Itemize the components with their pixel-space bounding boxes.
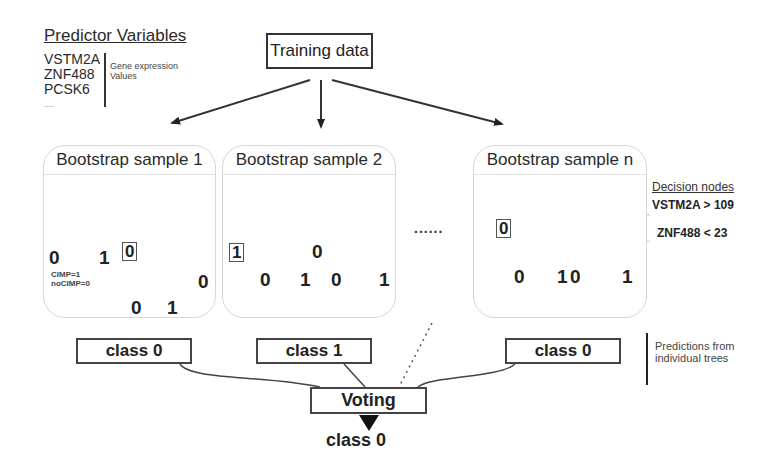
leaf-node: 0 — [49, 248, 60, 267]
leaf-node: 1 — [622, 267, 633, 286]
voting-box: Voting — [310, 387, 427, 414]
leaf-node: 1 — [379, 270, 390, 289]
predictor-gene-list: VSTM2A ZNF488 PCSK6 .... — [44, 52, 100, 112]
leaf-node: 0 — [331, 270, 342, 289]
gene-label: .... — [44, 97, 100, 112]
gene-label: PCSK6 — [44, 82, 100, 97]
predictor-variables-title: Predictor Variables — [44, 26, 186, 46]
tree-2-prediction: class 1 — [256, 338, 372, 364]
divider — [44, 174, 215, 175]
bootstrap-sample-1: Bootstrap sample 1 — [43, 145, 216, 318]
highlighted-leaf-node: 1 — [229, 243, 244, 262]
gene-label: VSTM2A — [44, 52, 100, 67]
divider — [223, 174, 395, 175]
bootstrap-title: Bootstrap sample 1 — [44, 150, 215, 170]
class-legend: CIMP=1 noCIMP=0 — [51, 270, 90, 288]
decision-node-label: ZNF488 < 23 — [657, 226, 727, 240]
bootstrap-title: Bootstrap sample 2 — [223, 150, 395, 170]
training-data-box: Training data — [266, 33, 373, 69]
divider — [104, 53, 106, 107]
divider — [646, 333, 648, 385]
tree-1-prediction: class 0 — [76, 338, 192, 364]
leaf-node: 0 — [131, 298, 142, 317]
bootstrap-title: Bootstrap sample n — [474, 150, 646, 170]
leaf-node: 0 — [570, 267, 581, 286]
final-prediction: class 0 — [326, 430, 386, 451]
decision-node-label: VSTM2A > 109 — [652, 198, 734, 212]
decision-nodes-title: Decision nodes — [652, 180, 734, 194]
highlighted-leaf-node: 0 — [122, 242, 137, 261]
divider — [474, 174, 646, 175]
gene-label: ZNF488 — [44, 67, 100, 82]
leaf-node: 1 — [99, 248, 110, 267]
leaf-node: 0 — [514, 267, 525, 286]
leaf-node: 0 — [198, 272, 209, 291]
more-samples-ellipsis: ...... — [414, 220, 443, 236]
leaf-node: 0 — [312, 242, 323, 261]
leaf-node: 0 — [260, 270, 271, 289]
predictions-note: Predictions from individual trees — [655, 340, 734, 364]
tree-n-prediction: class 0 — [505, 338, 621, 364]
gene-expression-note: Gene expression Values — [110, 61, 178, 81]
leaf-node: 1 — [300, 270, 311, 289]
leaf-node: 1 — [167, 298, 178, 317]
bootstrap-sample-2: Bootstrap sample 2 — [222, 145, 396, 318]
highlighted-leaf-node: 0 — [496, 219, 511, 238]
leaf-node: 1 — [557, 267, 568, 286]
